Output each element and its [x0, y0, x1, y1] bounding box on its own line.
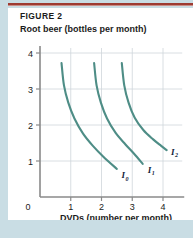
curve-label-i1: I1 [147, 165, 155, 177]
x-tick-label: 4 [160, 202, 165, 212]
y-tick-label: 2 [28, 121, 33, 131]
indifference-curve-i0 [62, 63, 117, 169]
curve-label-subscript: 0 [125, 176, 128, 182]
indifference-curve-chart: 123412340 I0I1I2 [0, 0, 193, 238]
curve-label-i2: I2 [170, 147, 178, 159]
x-tick-label: 2 [99, 202, 104, 212]
curve-label-i0: I0 [120, 170, 128, 182]
indifference-curve-i2 [122, 63, 167, 150]
chart-tick-marks [36, 53, 163, 201]
curve-label-subscript: 1 [152, 170, 155, 176]
y-tick-label: 4 [28, 49, 33, 59]
curve-label-subscript: 2 [174, 152, 178, 158]
x-tick-label: 3 [130, 202, 135, 212]
chart-curve-labels: I0I1I2 [120, 147, 178, 182]
chart-curves [62, 63, 167, 169]
y-tick-label: 3 [28, 85, 33, 95]
y-tick-label: 1 [28, 157, 33, 167]
origin-label: 0 [25, 202, 30, 212]
page-background: FIGURE 2 Root beer (bottles per month) 1… [0, 0, 193, 238]
bottom-band [0, 220, 193, 238]
x-tick-label: 1 [68, 202, 73, 212]
